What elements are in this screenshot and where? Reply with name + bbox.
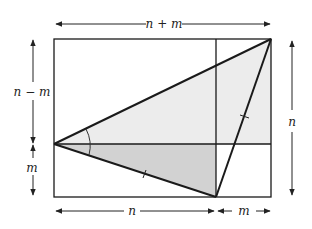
label-left-upper: n − m	[14, 85, 51, 99]
label-left-lower: m	[26, 161, 37, 175]
label-bottom-right: m	[238, 204, 249, 218]
label-top: n + m	[146, 17, 183, 31]
label-bottom-left: n	[128, 204, 136, 218]
label-right: n	[288, 115, 296, 129]
geometry-diagram: n + m n − m m n n m	[0, 0, 312, 229]
